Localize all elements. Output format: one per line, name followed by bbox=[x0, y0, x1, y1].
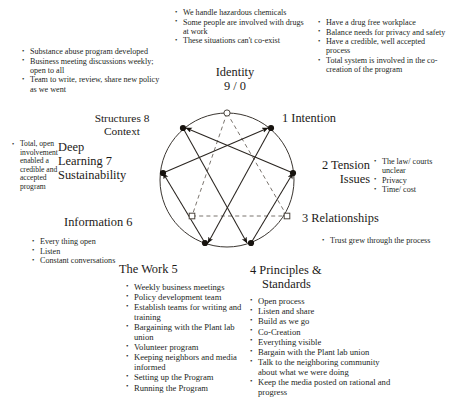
list-item: Keep the media posted on rational and pr… bbox=[250, 378, 400, 397]
node-label-4-line2: Standards bbox=[250, 277, 390, 291]
enneagram-node-6 bbox=[189, 213, 195, 219]
enneagram-diagram bbox=[150, 103, 308, 258]
list-item: Business meeting discussions weekly; ope… bbox=[22, 57, 162, 75]
list-item: Setting up the Program bbox=[126, 373, 248, 383]
enneagram-hexad-lines bbox=[163, 128, 293, 243]
list-item: Substance abuse program developed bbox=[22, 47, 162, 56]
node-label-3: 3 Relationships bbox=[302, 212, 442, 226]
bullet-list-top-left: Substance abuse program developed Busine… bbox=[22, 47, 162, 94]
list-item: Build as we go bbox=[250, 317, 400, 327]
bullet-list-top-right: Have a drug free workplace Balance needs… bbox=[318, 18, 450, 74]
list-item: Total, open involvement enabled a credib… bbox=[12, 140, 60, 191]
enneagram-node-3 bbox=[284, 213, 290, 219]
list-item: Some people are involved with drugs at w… bbox=[175, 18, 305, 36]
bullet-list-top-center: We handle hazardous chemicals Some peopl… bbox=[175, 8, 305, 46]
list-item: Privacy bbox=[374, 176, 455, 185]
enneagram-node-2 bbox=[290, 170, 296, 176]
node-label-4: 4 Principles & Standards bbox=[250, 263, 390, 291]
list-item: Talk to the neighboring community about … bbox=[250, 358, 400, 377]
node-label-7-line1: Deep bbox=[58, 140, 158, 154]
bullet-list-bottom-right: Open process Listen and share Build as w… bbox=[250, 297, 400, 398]
text-block-top-center: We handle hazardous chemicals Some peopl… bbox=[175, 8, 305, 46]
text-block-bottom-right: Open process Listen and share Build as w… bbox=[250, 297, 400, 398]
enneagram-node-7 bbox=[160, 170, 166, 176]
list-item: These situations can't co-exist bbox=[175, 36, 305, 45]
list-item: Listen bbox=[32, 247, 152, 256]
bullet-list-bottom-left: Weekly business meetings Policy developm… bbox=[126, 283, 248, 393]
text-block-top-right: Have a drug free workplace Balance needs… bbox=[318, 18, 450, 75]
list-item: Balance needs for privacy and safety bbox=[318, 28, 450, 37]
list-item: Time/ cost bbox=[374, 185, 455, 194]
list-item: Co-Creation bbox=[250, 328, 400, 338]
list-item: Have a credible, well accepted process bbox=[318, 37, 450, 55]
text-block-left-mid: Total, open involvement enabled a credib… bbox=[12, 140, 60, 192]
list-item: Bargaining with the Plant lab union bbox=[126, 323, 248, 342]
list-item: We handle hazardous chemicals bbox=[175, 8, 305, 17]
list-item: Have a drug free workplace bbox=[318, 18, 450, 27]
list-item: Running the Program bbox=[126, 384, 248, 394]
identity-number: 9 / 0 bbox=[175, 80, 295, 94]
enneagram-node-8 bbox=[180, 125, 186, 131]
node-label-7: Deep Learning 7 Sustainability bbox=[58, 140, 158, 182]
list-item: Every thing open bbox=[32, 237, 152, 246]
identity-label: Identity bbox=[175, 66, 295, 80]
node-label-5: The Work 5 bbox=[119, 263, 239, 277]
text-block-bottom-left: Weekly business meetings Policy developm… bbox=[126, 283, 248, 394]
text-block-top-left: Substance abuse program developed Busine… bbox=[22, 47, 162, 94]
enneagram-node-4 bbox=[248, 240, 254, 246]
list-item: Establish teams for writing and training bbox=[126, 303, 248, 322]
enneagram-circle bbox=[160, 113, 294, 247]
text-block-right-lower: Trust grew through the process bbox=[322, 236, 440, 246]
list-item: Total system is involved in the co-creat… bbox=[318, 56, 450, 74]
node-label-3-text: 3 Relationships bbox=[302, 211, 379, 225]
enneagram-node-1 bbox=[268, 125, 274, 131]
list-item: Team to write, review, share new policy … bbox=[22, 75, 162, 93]
list-item: Keeping neighbors and media informed bbox=[126, 353, 248, 372]
node-label-6-text: Information 6 bbox=[64, 215, 132, 229]
bullet-list-right-lower: Trust grew through the process bbox=[322, 236, 440, 245]
text-block-right-mid: The law/ courts unclear Privacy Time/ co… bbox=[374, 157, 455, 195]
bullet-list-left-mid: Total, open involvement enabled a credib… bbox=[12, 140, 60, 191]
node-label-7-line3: Sustainability bbox=[58, 168, 158, 182]
diagram-center-title: Identity 9 / 0 bbox=[175, 66, 295, 94]
enneagram-node-9 bbox=[224, 110, 230, 116]
list-item: The law/ courts unclear bbox=[374, 157, 455, 175]
list-item: Trust grew through the process bbox=[322, 236, 440, 245]
node-label-4-line1: 4 Principles & bbox=[250, 263, 390, 277]
node-label-5-text: The Work 5 bbox=[119, 262, 178, 276]
enneagram-poster: We handle hazardous chemicals Some peopl… bbox=[0, 0, 455, 412]
bullet-list-right-mid: The law/ courts unclear Privacy Time/ co… bbox=[374, 157, 455, 195]
enneagram-node-5 bbox=[202, 240, 208, 246]
node-label-7-line2: Learning 7 bbox=[58, 154, 158, 168]
